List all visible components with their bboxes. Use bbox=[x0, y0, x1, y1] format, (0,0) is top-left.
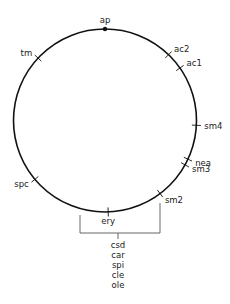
marker-label-ery: ery bbox=[101, 216, 115, 226]
gene-list: csd car spi cle ole bbox=[111, 240, 126, 290]
marker-label-sm4: sm4 bbox=[204, 121, 222, 131]
origin-label: ap bbox=[100, 15, 111, 25]
marker-label-sm3: sm3 bbox=[192, 164, 210, 174]
marker-label-tm: tm bbox=[21, 48, 33, 58]
gene-label: spi bbox=[112, 260, 124, 270]
marker-label-ac2: ac2 bbox=[174, 44, 189, 54]
gene-label: ole bbox=[112, 280, 125, 290]
gene-cluster-bracket bbox=[80, 203, 160, 239]
circular-map: ap tmac2ac1sm4neasm3sm2eryspc csd car sp… bbox=[0, 0, 230, 304]
marker-tick-sm2 bbox=[157, 190, 162, 197]
marker-label-sm2: sm2 bbox=[165, 195, 183, 205]
markers-group: tmac2ac1sm4neasm3sm2eryspc bbox=[14, 44, 222, 226]
marker-tick-ac1 bbox=[176, 65, 183, 70]
gene-label: car bbox=[111, 250, 125, 260]
chromosome-circle bbox=[14, 29, 197, 212]
marker-label-spc: spc bbox=[14, 179, 29, 189]
gene-label: cle bbox=[112, 270, 124, 280]
gene-label: csd bbox=[111, 240, 126, 250]
marker-label-ac1: ac1 bbox=[187, 58, 202, 68]
origin-dot bbox=[103, 27, 107, 31]
